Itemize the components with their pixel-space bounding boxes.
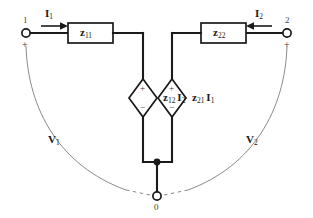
voltage-label-v1-symbol: V [48,133,56,145]
dependent-source-left-minus: − [140,103,145,112]
junction-dot-common [154,159,161,166]
impedance-label-z22-subscript: 22 [218,31,225,40]
dependent-source-left-expression: z12I2 [163,92,185,104]
voltage-arc-v2-dashed-tail [164,190,188,195]
voltage-arc-v1-dashed-tail [126,190,150,195]
terminal-label-common-number: 0 [154,203,159,212]
dependent-source-right-z-subscript: 21 [197,96,204,105]
voltage-label-v2-symbol: V [246,133,254,145]
voltage-arc-v1 [26,46,126,190]
dependent-source-right-current-subscript: 1 [211,96,215,105]
terminal-polarity-input: + [22,40,28,50]
voltage-label-v2-subscript: 2 [254,138,258,147]
current-label-i1-subscript: 1 [49,12,53,21]
circuit-diagram: 1 + 2 + 0 I1 I2 z11 z22 + − + − z12I2 z2… [0,0,313,218]
current-arrow-i2-head [246,22,254,29]
terminal-open-circle-common [153,192,161,200]
circuit-schematic-canvas [0,0,313,218]
dependent-source-right-expression: z21I1 [192,92,214,104]
dependent-source-left-plus: + [140,84,145,93]
impedance-label-z11: z11 [80,27,92,39]
terminal-label-output-number: 2 [285,16,290,25]
dependent-source-left-z-subscript: 12 [168,96,175,105]
voltage-arc-v2 [188,46,287,190]
current-label-i2-subscript: 2 [259,12,263,21]
impedance-label-z11-subscript: 11 [85,31,92,40]
terminal-open-circle-input [22,29,30,37]
dependent-source-left-current-subscript: 2 [182,96,186,105]
current-arrow-i1-head [60,22,68,29]
voltage-label-v1: V1 [48,134,60,146]
terminal-label-input-number: 1 [23,16,28,25]
voltage-label-v2: V2 [246,134,258,146]
impedance-label-z22: z22 [213,27,225,39]
current-label-i1: I1 [45,8,53,20]
voltage-label-v1-subscript: 1 [56,138,60,147]
current-label-i2: I2 [255,8,263,20]
terminal-open-circle-output [283,29,291,37]
terminal-polarity-output: + [284,40,290,50]
